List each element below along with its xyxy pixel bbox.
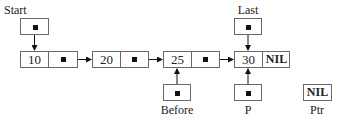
list-node-25: 25 [163,51,220,68]
list-node-20: 20 [92,51,149,68]
pointer-dot-icon [33,25,38,30]
start-label: Start [2,3,50,18]
node-value: 20 [93,52,121,67]
node-next-nil: NIL [263,52,290,67]
ptr-nil-value: NIL [304,85,331,100]
pointer-dot-icon [61,57,66,62]
list-node-30: 30 NIL [234,51,290,68]
pointer-dot-icon [132,57,137,62]
pointer-dot-icon [246,25,251,30]
before-pointer-box [163,84,191,101]
list-node-10: 10 [20,51,78,68]
p-label: P [218,103,278,118]
node-value: 25 [164,52,192,67]
node-value: 10 [21,52,49,67]
pointer-dot-icon [203,57,208,62]
before-label: Before [147,103,207,118]
node-value: 30 [235,52,263,67]
pointer-dot-icon [175,91,180,96]
pointer-dot-icon [246,91,251,96]
last-pointer-box [234,18,262,35]
last-label: Last [218,3,278,18]
ptr-label: Ptr [287,103,346,118]
p-pointer-box [234,84,262,101]
start-pointer-box [20,18,49,35]
ptr-pointer-box: NIL [303,84,332,101]
